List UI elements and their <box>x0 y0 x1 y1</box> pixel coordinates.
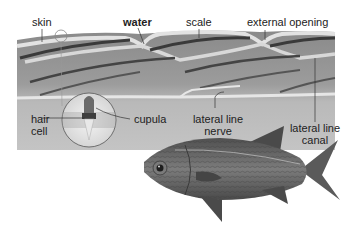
label-lateral-line-canal-line1: lateral line <box>286 122 344 134</box>
label-scale: scale <box>186 16 212 28</box>
label-lateral-line-nerve-line2: nerve <box>190 125 246 137</box>
label-lateral-line-canal-line2: canal <box>286 134 344 146</box>
label-water: water <box>123 16 152 28</box>
label-hair-cell-line2: cell <box>31 125 48 137</box>
label-hair-cell-line1: hair <box>31 113 49 125</box>
lateral-line-diagram: skin water scale external opening hair c… <box>0 0 352 234</box>
label-external-opening: external opening <box>247 16 328 28</box>
label-lateral-line-nerve-line1: lateral line <box>190 113 246 125</box>
label-cupula: cupula <box>134 113 166 125</box>
label-skin: skin <box>32 16 52 28</box>
diagram-artwork <box>0 0 352 234</box>
